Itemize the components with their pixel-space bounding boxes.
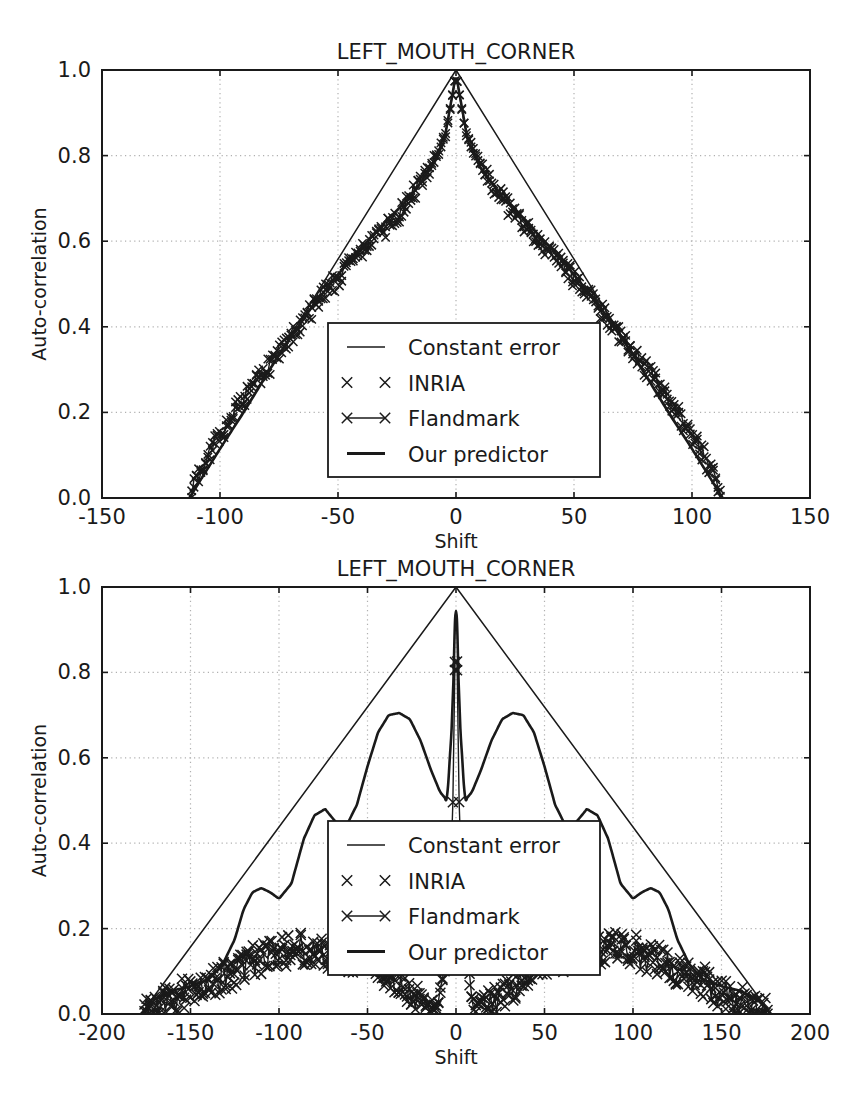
x-tick-label: 200 xyxy=(790,1021,830,1045)
x-tick-label: 150 xyxy=(701,1021,741,1045)
x-axis-label: Shift xyxy=(434,1046,477,1068)
x-tick-label: -150 xyxy=(167,1021,215,1045)
x-tick-label: 150 xyxy=(790,505,830,529)
legend-label: INRIA xyxy=(408,870,466,894)
x-tick-label: 50 xyxy=(561,505,588,529)
y-tick-label: 0.6 xyxy=(58,229,91,253)
y-tick-label: 0.8 xyxy=(58,144,91,168)
legend-label: Constant error xyxy=(408,834,560,858)
legend-label: Flandmark xyxy=(408,905,520,929)
y-axis-label: Auto-correlation xyxy=(28,207,50,360)
chart-canvas-bottom: -200-150-100-500501001502000.00.20.40.60… xyxy=(0,531,860,1101)
x-tick-label: 0 xyxy=(449,505,462,529)
legend-label: Our predictor xyxy=(408,443,548,467)
legend-label: Flandmark xyxy=(408,407,520,431)
y-tick-label: 0.4 xyxy=(58,831,91,855)
y-tick-label: 0.4 xyxy=(58,315,91,339)
y-tick-label: 0.0 xyxy=(58,486,91,510)
y-tick-label: 1.0 xyxy=(58,58,91,82)
chart-figure-top: -150-100-500501001500.00.20.40.60.81.0LE… xyxy=(0,0,860,552)
legend-label: Our predictor xyxy=(408,941,548,965)
x-tick-label: 100 xyxy=(672,505,712,529)
x-tick-label: -100 xyxy=(255,1021,303,1045)
y-axis-label: Auto-correlation xyxy=(28,724,50,877)
x-tick-label: -50 xyxy=(350,1021,384,1045)
legend-label: INRIA xyxy=(408,372,466,396)
figure-page: -150-100-500501001500.00.20.40.60.81.0LE… xyxy=(0,0,860,1101)
chart-legend: Constant errorINRIAFlandmarkOur predicto… xyxy=(328,821,600,975)
y-tick-label: 1.0 xyxy=(58,575,91,599)
legend-label: Constant error xyxy=(408,336,560,360)
chart-legend: Constant errorINRIAFlandmarkOur predicto… xyxy=(328,323,600,477)
y-tick-label: 0.6 xyxy=(58,746,91,770)
x-tick-label: -100 xyxy=(196,505,244,529)
y-tick-label: 0.0 xyxy=(58,1002,91,1026)
chart-title: LEFT_MOUTH_CORNER xyxy=(337,557,576,582)
chart-figure-bottom: -200-150-100-500501001502000.00.20.40.60… xyxy=(0,531,860,1101)
chart-title: LEFT_MOUTH_CORNER xyxy=(337,40,576,65)
x-tick-label: -50 xyxy=(321,505,355,529)
x-tick-label: 100 xyxy=(613,1021,653,1045)
y-tick-label: 0.2 xyxy=(58,400,91,424)
x-tick-label: 0 xyxy=(449,1021,462,1045)
chart-canvas-top: -150-100-500501001500.00.20.40.60.81.0LE… xyxy=(0,0,860,552)
y-tick-label: 0.8 xyxy=(58,660,91,684)
y-tick-label: 0.2 xyxy=(58,917,91,941)
x-tick-label: 50 xyxy=(531,1021,558,1045)
